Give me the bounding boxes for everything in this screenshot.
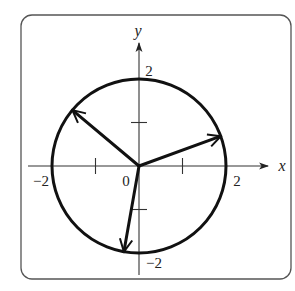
- x-tick-label-neg2: −2: [33, 173, 49, 189]
- y-tick-label-pos2: 2: [145, 63, 153, 79]
- x-tick-label-pos2: 2: [233, 173, 241, 189]
- diagram-canvas: y x 0 −2 2 2 −2: [0, 0, 295, 291]
- x-axis-label: x: [277, 157, 285, 174]
- y-tick-label-neg2: −2: [146, 255, 162, 271]
- y-axis-label: y: [132, 22, 142, 40]
- origin-label: 0: [122, 173, 130, 189]
- figure-frame: [21, 15, 291, 279]
